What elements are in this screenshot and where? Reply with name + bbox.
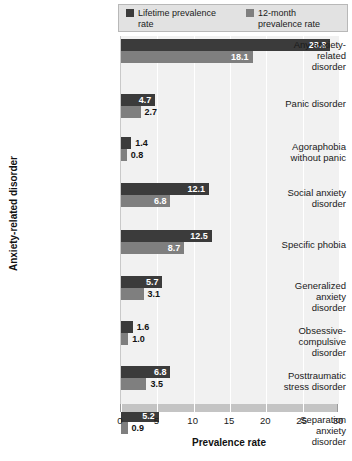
category-label-line: disorder <box>240 347 346 358</box>
bar[interactable] <box>121 288 144 300</box>
tick-mark-25 <box>303 404 304 412</box>
tick-mark-5 <box>157 404 158 412</box>
category-label: Social anxietydisorder <box>240 187 352 209</box>
x-tick-label: 30 <box>333 415 344 426</box>
category-label-line: Posttraumatic <box>240 370 346 381</box>
bar-value-label: 12.5 <box>121 230 208 242</box>
bar-value-label: 12.1 <box>121 183 205 195</box>
category-label-line: Generalized <box>240 280 346 291</box>
bar-value-label: 2.7 <box>145 106 158 118</box>
x-tick-label: 15 <box>224 415 235 426</box>
legend-item-lifetime-prevalence[interactable]: Lifetime prevalence rate <box>126 8 244 29</box>
bar-value-label: 3.1 <box>148 288 161 300</box>
bar-value-label: 0.8 <box>131 149 144 161</box>
bar[interactable] <box>121 333 128 345</box>
legend-label-lifetime-line2: rate <box>138 19 216 30</box>
chart-legend: Lifetime prevalence rate 12-month preval… <box>118 4 348 32</box>
category-label-line: disorder <box>240 198 346 209</box>
category-label: Any anxiety-relateddisorder <box>240 39 352 72</box>
category-label: Specific phobia <box>240 239 352 250</box>
tick-mark-0 <box>121 404 122 412</box>
tick-mark-30 <box>339 404 340 412</box>
bar-value-label: 8.7 <box>121 242 180 254</box>
category-label-line: disorder <box>240 61 346 72</box>
legend-label-12-month: 12-month prevalence rate <box>258 8 320 29</box>
category-label-line: Obsessive- <box>240 325 346 336</box>
category-label-line: Agoraphobia <box>240 141 346 152</box>
bar-value-label: 4.7 <box>121 94 151 106</box>
category-label: Generalizedanxietydisorder <box>240 280 352 313</box>
bar[interactable] <box>121 149 127 161</box>
category-label-line: Panic disorder <box>240 98 346 109</box>
x-tick-label: 0 <box>117 415 122 426</box>
bar-value-label: 1.6 <box>137 321 150 333</box>
legend-item-12-month-prevalence[interactable]: 12-month prevalence rate <box>246 8 346 29</box>
bar-value-label: 6.8 <box>121 195 166 207</box>
tick-mark-20 <box>266 404 267 412</box>
gridline-5 <box>157 36 158 404</box>
bar-value-label: 6.8 <box>121 366 166 378</box>
category-label-line: related <box>240 50 346 61</box>
bar[interactable] <box>121 106 141 118</box>
category-label-line: Any anxiety- <box>240 39 346 50</box>
prevalence-bar-chart: Lifetime prevalence rate 12-month preval… <box>0 0 352 461</box>
category-label: Obsessive-compulsivedisorder <box>240 325 352 358</box>
tick-mark-15 <box>230 404 231 412</box>
category-label-line: disorder <box>240 302 346 313</box>
legend-swatch-lifetime <box>126 9 134 17</box>
bar-value-label: 18.1 <box>121 51 249 63</box>
bar-value-label: 3.5 <box>150 378 163 390</box>
tick-mark-10 <box>194 404 195 412</box>
gridline-15 <box>230 36 231 404</box>
bar[interactable] <box>121 378 146 390</box>
y-axis-title: Anxiety-related disorder <box>8 139 19 289</box>
category-label-line: anxiety <box>240 425 346 436</box>
gridline-10 <box>194 36 195 404</box>
x-tick-label: 10 <box>187 415 198 426</box>
category-label-line: stress disorder <box>240 381 346 392</box>
legend-label-12-month-line1: 12-month <box>258 8 320 19</box>
bar[interactable] <box>121 321 133 333</box>
category-label-line: without panic <box>240 152 346 163</box>
bar-value-label: 0.9 <box>132 422 145 434</box>
x-axis-strip <box>120 404 338 412</box>
bar[interactable] <box>121 137 131 149</box>
category-label-line: compulsive <box>240 336 346 347</box>
category-label-line: anxiety <box>240 291 346 302</box>
x-tick-label: 5 <box>154 415 159 426</box>
bar-value-label: 5.7 <box>121 276 158 288</box>
category-label: Posttraumaticstress disorder <box>240 370 352 392</box>
legend-swatch-12-month <box>246 9 254 17</box>
legend-label-12-month-line2: prevalence rate <box>258 19 320 30</box>
category-label-line: Social anxiety <box>240 187 346 198</box>
legend-label-lifetime: Lifetime prevalence rate <box>138 8 216 29</box>
x-axis-title: Prevalence rate <box>120 437 338 448</box>
legend-label-lifetime-line1: Lifetime prevalence <box>138 8 216 19</box>
category-label-line: Specific phobia <box>240 239 346 250</box>
category-label: Agoraphobiawithout panic <box>240 141 352 163</box>
x-tick-label: 25 <box>296 415 307 426</box>
bar-value-label: 1.0 <box>132 333 145 345</box>
category-label: Panic disorder <box>240 98 352 109</box>
bar-value-label: 1.4 <box>135 137 148 149</box>
x-tick-label: 20 <box>260 415 271 426</box>
category-label-line: Separation <box>240 414 346 425</box>
